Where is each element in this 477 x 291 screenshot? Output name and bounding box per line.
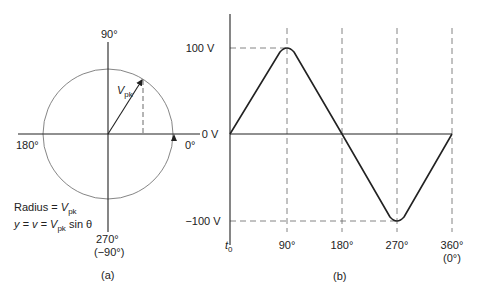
angle-label-90: 90°: [101, 28, 118, 40]
sine-wave-chart: 100 V 0 V −100 V t0 90° 180° 270° 360° (…: [185, 14, 463, 282]
vector-label: Vpk: [117, 84, 134, 99]
phasor-diagram: 90° 180° 0° 270° (−90°) Vpk Radius = Vpk…: [13, 28, 200, 281]
angle-label-180: 180°: [16, 139, 39, 151]
x-label-180: 180°: [331, 239, 354, 251]
x-label-270: 270°: [386, 239, 409, 251]
angle-label-270: 270°: [96, 233, 119, 245]
radius-formula: Radius = Vpk: [14, 201, 78, 216]
x-label-90: 90°: [279, 239, 296, 251]
y-label-0v: 0 V: [202, 128, 219, 140]
vpk-vector-arrow: [108, 80, 142, 134]
angle-label-0: 0°: [185, 139, 196, 151]
figure-b-caption: (b): [333, 270, 346, 282]
x-label-0-alt: (0°): [443, 252, 461, 264]
sine-wave-figure: 90° 180° 0° 270° (−90°) Vpk Radius = Vpk…: [0, 0, 477, 291]
sine-formula: y = v = Vpk sin θ: [13, 218, 92, 233]
figure-a-caption: (a): [101, 269, 114, 281]
x-label-t0: t0: [225, 239, 233, 254]
rotation-arrow-icon: [171, 134, 177, 141]
y-label-minus100v: −100 V: [185, 215, 221, 227]
angle-label-minus90: (−90°): [94, 246, 124, 258]
x-label-360: 360°: [441, 239, 464, 251]
y-label-100v: 100 V: [186, 42, 215, 54]
